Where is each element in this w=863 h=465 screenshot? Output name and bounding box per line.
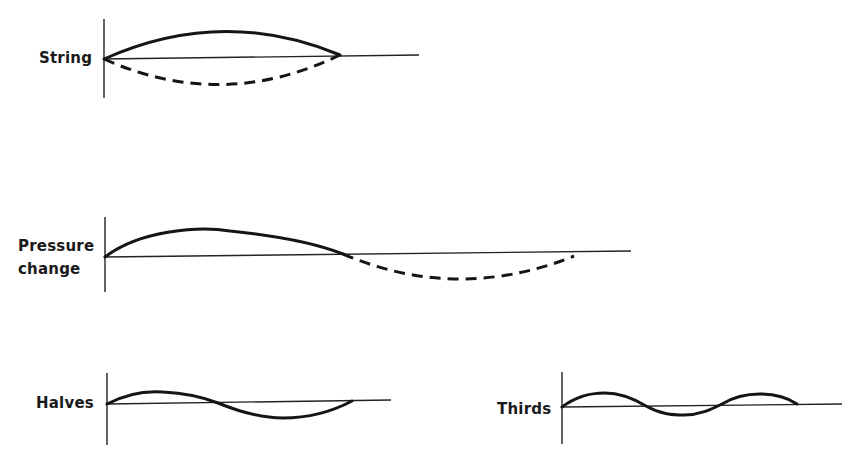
pressure-label-line2: change [18, 258, 80, 281]
halves-wave [107, 392, 352, 418]
diagram-canvas [0, 0, 863, 465]
pressure-dashed-halfwave [343, 254, 574, 279]
halves-label: Halves [36, 392, 94, 415]
thirds-label: Thirds [497, 398, 551, 421]
string-solid-arc [104, 31, 340, 59]
thirds-baseline [562, 404, 842, 407]
thirds-wave [562, 393, 797, 415]
pressure-label-line1: Pressure [18, 235, 94, 258]
pressure-solid-halfwave [105, 229, 343, 257]
standing-wave-diagram: String Pressure change Halves Thirds [0, 0, 863, 465]
halves-panel [107, 373, 391, 445]
string-dashed-arc [104, 55, 340, 85]
string-baseline [104, 55, 419, 59]
pressure-panel [105, 217, 631, 292]
string-label: String [39, 47, 92, 70]
pressure-baseline [105, 251, 631, 257]
string-panel [104, 19, 419, 98]
thirds-panel [562, 372, 842, 444]
